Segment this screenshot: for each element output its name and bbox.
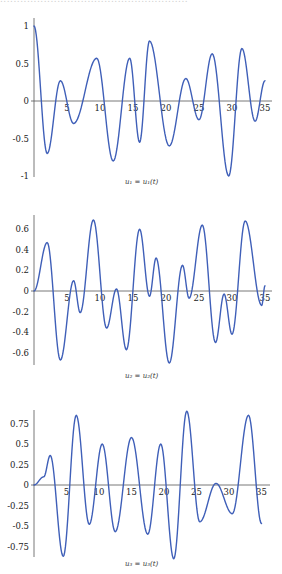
y-tick-label: 0.25 xyxy=(10,460,29,470)
y-tick-label: 0.4 xyxy=(15,245,29,255)
y-tick-label: 0 xyxy=(24,480,29,490)
y-tick-label: -1 xyxy=(21,171,29,181)
y-tick-label: 0.5 xyxy=(15,59,29,69)
x-tick-label: 20 xyxy=(159,487,170,497)
y-tick-label: 0.2 xyxy=(15,265,29,275)
x-tick-label: 35 xyxy=(260,103,271,113)
y-tick-label: 0 xyxy=(24,286,29,296)
x-tick-label: 10 xyxy=(95,293,106,303)
y-tick-label: 0.75 xyxy=(10,419,29,429)
plot-caption: u₁ = u₁(t) xyxy=(125,178,158,186)
x-tick-label: 15 xyxy=(126,487,137,497)
x-tick-label: 30 xyxy=(224,487,235,497)
y-tick-label: 0.5 xyxy=(15,439,29,449)
y-tick-label: 0 xyxy=(24,96,29,106)
y-tick-label: -0.2 xyxy=(13,307,29,317)
plot-u3: 0.750.50.250-0.25-0.5-0.755101520253035u… xyxy=(0,385,282,574)
y-tick-label: -0.6 xyxy=(13,348,29,358)
x-tick-label: 35 xyxy=(260,293,271,303)
x-tick-label: 15 xyxy=(128,103,139,113)
plot-caption: u₃ = u₃(t) xyxy=(125,560,158,568)
y-tick-label: 1 xyxy=(24,21,29,31)
y-tick-label: -0.75 xyxy=(7,542,29,552)
y-tick-label: 0.6 xyxy=(15,224,29,234)
x-tick-label: 30 xyxy=(227,293,238,303)
x-tick-label: 25 xyxy=(191,487,202,497)
y-tick-label: -0.25 xyxy=(7,501,29,511)
y-tick-label: -0.4 xyxy=(13,327,29,337)
x-tick-label: 25 xyxy=(194,293,205,303)
y-tick-label: -0.5 xyxy=(13,521,29,531)
y-tick-label: -0.5 xyxy=(13,134,29,144)
plot-u2: 0.60.40.20-0.2-0.4-0.65101520253035u₂ = … xyxy=(0,195,282,385)
plot-caption: u₂ = u₂(t) xyxy=(125,372,158,380)
plot-u1: 10.50-0.5-15101520253035u₁ = u₁(t) xyxy=(0,0,282,195)
series-line-u2 xyxy=(34,220,265,363)
x-tick-label: 5 xyxy=(64,487,69,497)
